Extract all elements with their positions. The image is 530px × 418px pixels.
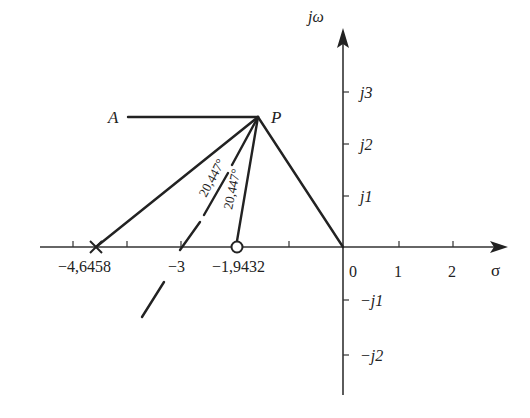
line-P-minus3-seg3: [180, 222, 200, 250]
angle-label-2: 20,447°: [220, 167, 243, 210]
pole-label: −4,6458: [58, 258, 111, 275]
tick-label-neg-j2: −j2: [360, 347, 383, 365]
point-P-label: P: [270, 108, 281, 127]
tick-label-neg-j1: −j1: [360, 292, 383, 310]
imag-axis-label: jω: [306, 8, 324, 26]
s-plane-diagram: jω σ 0 1 2 j3 j2 j1 −j1 −j2 −4,6458 −3 −…: [0, 0, 530, 418]
tick-label-2: 2: [448, 263, 456, 280]
line-P-origin: [258, 117, 343, 247]
line-extension-segment: [142, 282, 164, 317]
zero-circle-icon: [232, 242, 243, 253]
tick-label-j3: j3: [358, 84, 372, 102]
zero-label: −1,9432: [212, 258, 265, 275]
tick-label-1: 1: [394, 263, 402, 280]
tick-label-j1: j1: [358, 188, 372, 206]
real-axis-label: σ: [491, 261, 500, 280]
tick-label-j2: j2: [358, 136, 372, 154]
point-A-label: A: [107, 108, 119, 127]
tick-label-0: 0: [349, 263, 357, 280]
imag-axis-ticks: [343, 92, 349, 355]
minus3-label: −3: [168, 258, 185, 275]
real-axis-ticks: [73, 241, 453, 247]
